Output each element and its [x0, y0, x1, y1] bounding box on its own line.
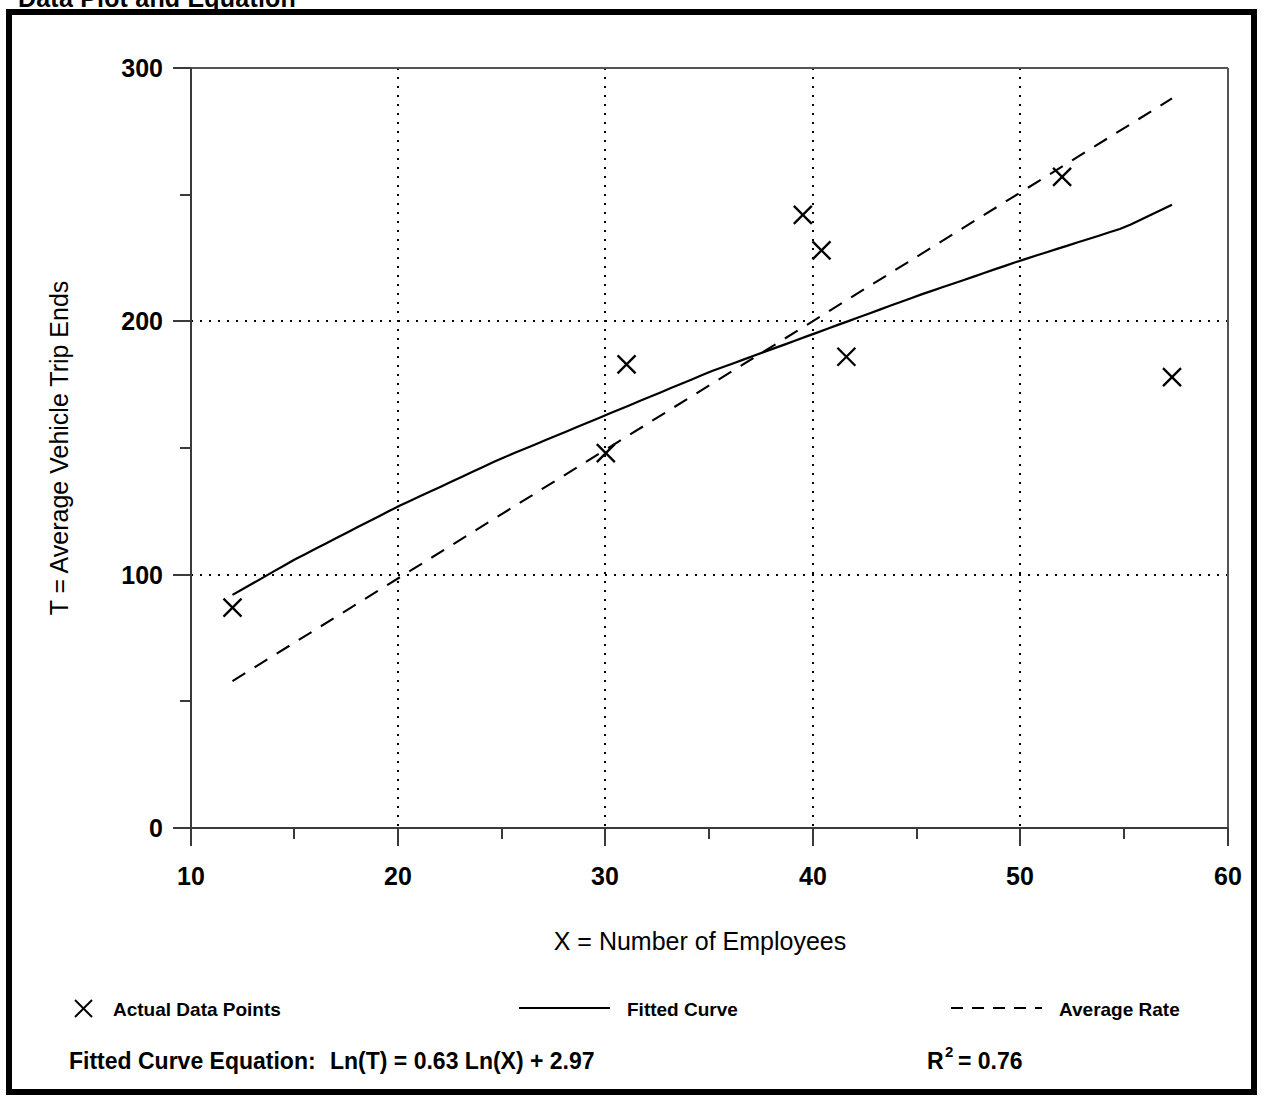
data-point-marker [837, 348, 855, 366]
data-point-marker [223, 599, 241, 617]
data-point-marker [1163, 368, 1181, 386]
x-tick-label-60: 60 [1214, 862, 1242, 890]
r-squared-base: R [927, 1048, 944, 1074]
legend-label-average-rate: Average Rate [1059, 999, 1180, 1020]
fitted-curve-equation-value: Ln(T) = 0.63 Ln(X) + 2.97 [330, 1048, 595, 1074]
data-point-marker [618, 355, 636, 373]
legend-item-actual-data-points: Actual Data Points [75, 999, 281, 1020]
r-squared-exponent: 2 [945, 1043, 953, 1060]
data-point-marker [597, 444, 615, 462]
legend-label-actual-data-points: Actual Data Points [113, 999, 281, 1020]
y-tick-label-300: 300 [121, 54, 163, 82]
x-tick-label-40: 40 [799, 862, 827, 890]
series-average-rate [232, 98, 1172, 681]
y-tick-labels: 300 200 100 0 [121, 54, 163, 842]
y-tick-label-0: 0 [149, 814, 163, 842]
x-tick-label-20: 20 [384, 862, 412, 890]
legend-item-fitted-curve: Fitted Curve [519, 999, 738, 1020]
x-tick-label-30: 30 [591, 862, 619, 890]
y-axis-ticks [173, 68, 191, 828]
series-fitted-curve [233, 205, 1173, 595]
fitted-curve-line [233, 205, 1173, 595]
data-point-marker [812, 241, 830, 259]
average-rate-line [232, 98, 1172, 681]
x-axis-title: X = Number of Employees [554, 927, 847, 955]
chart-page: Data Plot and Equation [0, 0, 1269, 1106]
gridlines [191, 68, 1228, 828]
x-tick-label-10: 10 [177, 862, 205, 890]
equation-row: Fitted Curve Equation: Ln(T) = 0.63 Ln(X… [69, 1043, 1023, 1074]
chart-legend: Actual Data Points Fitted Curve Average … [75, 999, 1180, 1020]
legend-label-fitted-curve: Fitted Curve [627, 999, 738, 1020]
fitted-curve-equation-label: Fitted Curve Equation: [69, 1048, 316, 1074]
x-tick-labels: 10 20 30 40 50 60 [177, 862, 1242, 890]
axes [191, 68, 1228, 828]
x-axis-ticks [191, 828, 1228, 846]
series-actual-data-points [223, 168, 1181, 617]
plot-frame-lines [191, 68, 1228, 828]
data-point-marker [794, 206, 812, 224]
x-tick-label-50: 50 [1006, 862, 1034, 890]
y-tick-label-100: 100 [121, 561, 163, 589]
r-squared-value: = 0.76 [958, 1048, 1023, 1074]
r-squared-statistic: R 2 = 0.76 [927, 1043, 1023, 1074]
chart-svg: 300 200 100 0 10 20 30 40 50 60 T = Aver… [0, 0, 1269, 1106]
data-point-marker [1053, 168, 1071, 186]
x-marker-icon [75, 1000, 92, 1017]
y-axis-title: T = Average Vehicle Trip Ends [45, 281, 73, 616]
y-tick-label-200: 200 [121, 307, 163, 335]
legend-item-average-rate: Average Rate [951, 999, 1180, 1020]
